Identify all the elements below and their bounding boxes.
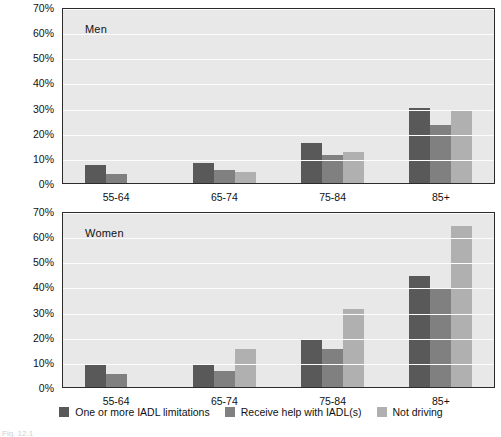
y-tick-label: 40%: [33, 78, 54, 88]
gridline: [63, 84, 494, 85]
bar: [409, 276, 430, 387]
y-tick-label: 50%: [33, 257, 54, 267]
y-tick-label: 40%: [33, 282, 54, 292]
legend-item: Receive help with IADL(s): [224, 406, 362, 418]
y-tick-label: 10%: [33, 154, 54, 164]
x-tick-label: 75-84: [279, 186, 387, 206]
y-tick-label: 10%: [33, 358, 54, 368]
gridline: [63, 339, 494, 340]
gridline: [63, 135, 494, 136]
bar: [214, 371, 235, 387]
y-tick-label: 20%: [33, 333, 54, 343]
y-tick-label: 70%: [33, 3, 54, 13]
y-axis-women: 0%10%20%30%40%50%60%70%: [0, 212, 58, 388]
figure-caption: Fig. 12.1: [2, 429, 202, 437]
x-tick-label: 55-64: [62, 186, 170, 206]
y-axis-men: 0%10%20%30%40%50%60%70%: [0, 8, 58, 184]
bar: [214, 170, 235, 183]
y-tick-label: 0%: [39, 383, 54, 393]
bar: [193, 364, 214, 387]
bar: [235, 349, 256, 387]
bar: [451, 110, 472, 183]
legend-item: Not driving: [376, 406, 443, 418]
gridline: [63, 9, 494, 10]
x-tick-label: 65-74: [170, 186, 278, 206]
gridline: [63, 314, 494, 315]
gridline: [63, 59, 494, 60]
legend-swatch-icon: [224, 406, 236, 418]
legend-label: Not driving: [393, 406, 443, 418]
gridline: [63, 238, 494, 239]
y-tick-label: 50%: [33, 53, 54, 63]
y-tick-label: 70%: [33, 207, 54, 217]
bar: [409, 108, 430, 183]
chart-legend: One or more IADL limitationsReceive help…: [0, 406, 501, 418]
bar: [85, 165, 106, 183]
panel-women: 0%10%20%30%40%50%60%70% Women 55-6465-74…: [0, 212, 501, 410]
legend-label: Receive help with IADL(s): [241, 406, 362, 418]
gridline: [63, 263, 494, 264]
bar: [301, 143, 322, 183]
bar: [106, 374, 127, 387]
plot-area-men: Men: [62, 8, 495, 184]
panel-men: 0%10%20%30%40%50%60%70% Men 55-6465-7475…: [0, 8, 501, 206]
gridline: [63, 110, 494, 111]
legend-item: One or more IADL limitations: [58, 406, 209, 418]
y-tick-label: 20%: [33, 129, 54, 139]
gridline: [63, 160, 494, 161]
gridline: [63, 34, 494, 35]
bar: [193, 163, 214, 183]
bar: [235, 172, 256, 183]
x-axis-men: 55-6465-7475-8485+: [62, 186, 495, 206]
legend-swatch-icon: [376, 406, 388, 418]
bar: [343, 309, 364, 387]
gridline: [63, 213, 494, 214]
y-tick-label: 60%: [33, 28, 54, 38]
figure-panel-chart: 0%10%20%30%40%50%60%70% Men 55-6465-7475…: [0, 0, 501, 437]
plot-area-women: Women: [62, 212, 495, 388]
y-tick-label: 60%: [33, 232, 54, 242]
y-tick-label: 30%: [33, 104, 54, 114]
bar: [322, 349, 343, 387]
bar: [343, 152, 364, 183]
gridline: [63, 364, 494, 365]
gridline: [63, 288, 494, 289]
legend-swatch-icon: [58, 406, 70, 418]
bar: [106, 174, 127, 183]
y-tick-label: 30%: [33, 308, 54, 318]
legend-label: One or more IADL limitations: [75, 406, 209, 418]
y-tick-label: 0%: [39, 179, 54, 189]
bar: [85, 364, 106, 387]
x-tick-label: 85+: [387, 186, 495, 206]
